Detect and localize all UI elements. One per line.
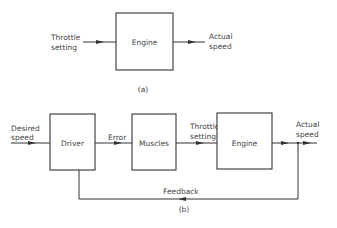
b-output-label-line1: Actual: [296, 120, 320, 129]
b-engine-label: Engine: [232, 139, 258, 148]
b-output-arrow-icon: [281, 141, 289, 145]
b-driver-label: Driver: [61, 139, 85, 148]
a-output-arrow-icon: [188, 40, 196, 44]
b-error-label: Error: [108, 133, 127, 142]
a-engine-label: Engine: [132, 38, 158, 47]
b-output-end-arrow-icon: [303, 141, 311, 145]
b-throttle-label-line1: Throttle: [189, 122, 220, 131]
b-throttle-arrow-icon: [196, 141, 204, 145]
b-caption: (b): [179, 205, 190, 214]
b-muscles-label: Muscles: [139, 139, 169, 148]
b-feedback-arrow-icon: [178, 197, 186, 201]
b-feedback-label: Feedback: [163, 187, 199, 196]
a-input-label-line1: Throttle: [50, 33, 81, 42]
a-caption: (a): [138, 85, 149, 94]
diagram-b: Desired speed Driver Error Muscles Throt…: [11, 113, 320, 214]
diagram-a: Throttle setting Engine Actual speed (a): [50, 13, 233, 94]
b-output-label-line2: speed: [296, 130, 319, 139]
a-input-arrow-icon: [96, 40, 104, 44]
a-input-label-line2: setting: [51, 43, 77, 52]
a-output-label-line2: speed: [209, 42, 232, 51]
a-output-label-line1: Actual: [209, 32, 233, 41]
engine-control-block-diagrams: Throttle setting Engine Actual speed (a)…: [0, 0, 337, 228]
b-input-label-line2: speed: [11, 133, 34, 142]
b-input-label-line1: Desired: [11, 124, 40, 133]
b-throttle-label-line2: setting: [190, 132, 216, 141]
